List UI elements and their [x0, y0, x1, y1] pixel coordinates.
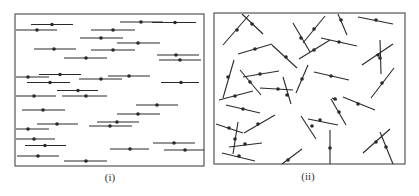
rod — [282, 149, 302, 164]
rod — [39, 73, 81, 77]
rod — [117, 112, 160, 116]
rod — [363, 129, 390, 153]
rod-center-dot — [250, 22, 254, 26]
rod-center-dot — [108, 124, 112, 128]
rod-center-dot — [111, 48, 115, 52]
rod — [314, 72, 349, 80]
panel-i-label: (i) — [90, 171, 130, 183]
rod — [272, 45, 297, 68]
rod — [22, 108, 65, 112]
rod-center-dot — [243, 142, 247, 146]
rod-center-dot — [248, 80, 252, 84]
rod — [91, 48, 135, 52]
rod — [260, 87, 293, 91]
panel-i-rods — [16, 20, 204, 163]
rod — [243, 71, 279, 77]
rod — [358, 17, 393, 24]
rod — [16, 75, 49, 79]
rod — [25, 144, 66, 148]
rod-center-dot — [84, 94, 88, 98]
rod — [110, 147, 149, 151]
rod-center-dot — [99, 36, 103, 40]
rod-center-dot — [299, 36, 303, 40]
rod-center-dot — [337, 40, 341, 44]
rod-center-dot — [253, 47, 257, 51]
rod-center-dot — [233, 137, 237, 141]
rod — [79, 77, 122, 81]
rod-center-dot — [48, 81, 52, 85]
rod — [308, 118, 338, 125]
rod — [64, 159, 107, 163]
rod-orientation-diagram — [0, 0, 419, 196]
rod — [17, 154, 59, 158]
rod-center-dot — [172, 141, 176, 145]
rod — [343, 97, 375, 110]
rod — [91, 28, 135, 32]
rod — [296, 65, 308, 93]
panel-ii-rods — [216, 14, 394, 164]
rod — [37, 122, 78, 126]
rod — [57, 89, 98, 93]
rod — [62, 94, 107, 98]
rod — [378, 40, 382, 74]
rod — [332, 97, 337, 101]
rod — [136, 103, 178, 107]
rod-center-dot — [286, 158, 290, 162]
rod — [157, 53, 199, 57]
rod — [380, 132, 393, 164]
rod — [108, 74, 150, 78]
rod — [16, 28, 57, 32]
rod-center-dot — [183, 148, 187, 152]
rod-center-dot — [52, 47, 56, 51]
rod-center-dot — [235, 28, 239, 32]
rod — [216, 124, 243, 133]
rod-center-dot — [285, 93, 289, 97]
rod-center-dot — [174, 53, 178, 57]
rod-center-dot — [99, 77, 103, 81]
rod-center-dot — [50, 23, 54, 27]
figure: (i) (ii) — [0, 0, 419, 196]
rod-center-dot — [329, 74, 333, 78]
rod — [80, 36, 123, 40]
rod-center-dot — [128, 147, 132, 151]
rod-center-dot — [339, 18, 343, 22]
rod — [242, 14, 263, 34]
rod — [34, 47, 76, 51]
rod-center-dot — [36, 154, 40, 158]
rod — [16, 127, 49, 131]
rod-center-dot — [284, 55, 288, 59]
rod — [226, 105, 260, 113]
rod-line — [338, 14, 347, 35]
rod-center-dot — [256, 122, 260, 126]
rod-center-dot — [380, 81, 384, 85]
rod-line — [223, 60, 234, 98]
rod — [222, 153, 255, 161]
rod — [117, 41, 160, 45]
rod-center-dot — [333, 97, 337, 101]
rod-center-dot — [178, 58, 182, 62]
rod-center-dot — [384, 145, 388, 149]
rod — [89, 124, 132, 128]
rod-center-dot — [26, 75, 30, 79]
rod — [371, 68, 394, 98]
rod — [244, 115, 275, 133]
rod — [223, 15, 249, 45]
rod-center-dot — [226, 75, 230, 79]
rod-center-dot — [127, 74, 131, 78]
rod-center-dot — [337, 110, 341, 114]
rod — [233, 122, 238, 154]
rod-center-dot — [310, 124, 314, 128]
rod-center-dot — [378, 56, 382, 60]
rod-center-dot — [237, 154, 241, 158]
rod-center-dot — [43, 144, 47, 148]
rod-center-dot — [356, 102, 360, 106]
rod-center-dot — [139, 20, 143, 24]
rod-center-dot — [115, 120, 119, 124]
rod-center-dot — [179, 81, 183, 85]
rod-center-dot — [173, 21, 177, 25]
rod-center-dot — [58, 73, 62, 77]
rod-center-dot — [376, 53, 380, 57]
rod-center-dot — [35, 28, 39, 32]
rod-center-dot — [300, 77, 304, 81]
rod — [16, 94, 56, 98]
